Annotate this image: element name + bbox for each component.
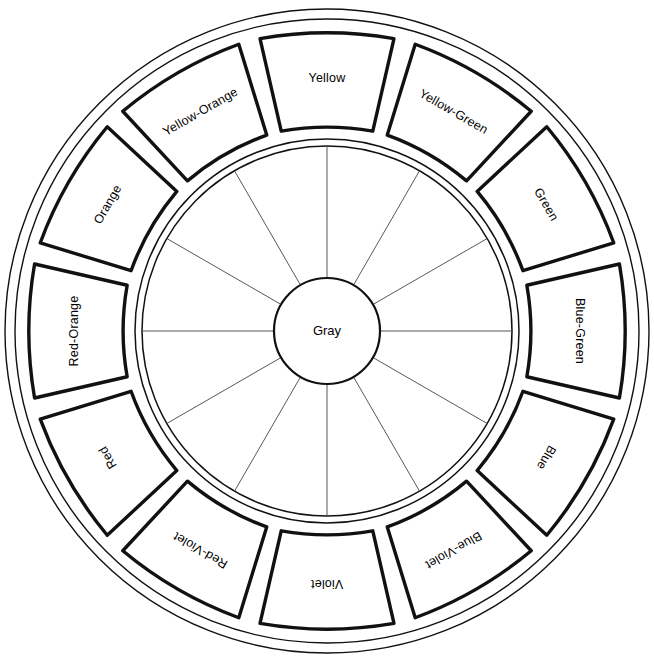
radial-spoke: [235, 377, 301, 491]
radial-spoke: [354, 377, 420, 491]
segment-label: Violet: [311, 577, 344, 591]
radial-spoke: [373, 358, 487, 424]
segment-label: Blue-Green: [573, 298, 587, 364]
center-gray-label: Gray: [313, 323, 342, 338]
segment-label: Yellow: [309, 71, 347, 85]
radial-spoke: [167, 239, 281, 305]
radial-spoke: [373, 239, 487, 305]
segment-label: Red-Orange: [67, 296, 81, 367]
radial-spoke: [167, 358, 281, 424]
color-wheel-diagram: Gray YellowYellow-GreenGreenBlue-GreenBl…: [0, 0, 654, 662]
radial-spoke: [354, 171, 420, 285]
radial-spoke: [235, 171, 301, 285]
color-wheel-svg: Gray YellowYellow-GreenGreenBlue-GreenBl…: [0, 0, 654, 662]
